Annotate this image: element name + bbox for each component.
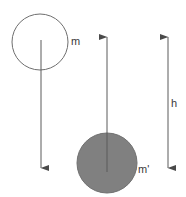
mass-m-label: m <box>71 36 80 47</box>
mass-m-prime-label: m' <box>138 164 149 175</box>
height-h-label: h <box>171 98 177 109</box>
physics-figure: m m' h <box>0 0 186 197</box>
open-circle-mass-m <box>12 14 68 70</box>
physics-diagram-canvas <box>0 0 186 197</box>
